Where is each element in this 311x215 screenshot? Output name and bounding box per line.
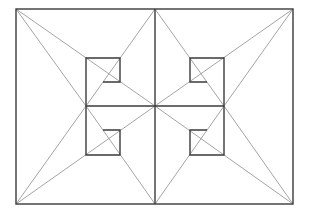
tr-to-right-node-line bbox=[224, 9, 293, 106]
bl-to-left-node-line bbox=[16, 106, 86, 204]
br-to-right-node-line bbox=[224, 106, 293, 204]
geometric-spiral-diagram bbox=[0, 0, 311, 215]
tl-to-left-node-line bbox=[16, 9, 86, 106]
divider-lines bbox=[86, 9, 224, 204]
